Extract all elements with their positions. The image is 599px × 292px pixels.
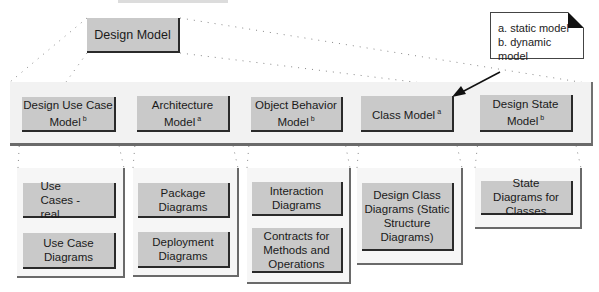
model-superscript: b [540,114,544,121]
model-label: Architecture Model [152,99,213,128]
model-label: Object Behavior Model [255,99,337,128]
model-superscript: a [437,108,441,115]
model-superscript: b [311,115,315,122]
arrowhead-icon [452,86,466,97]
artifact-interaction-diagrams: Interaction Diagrams [252,182,343,216]
artifact-label: Interaction Diagrams [262,184,332,212]
artifact-deployment-diagrams: Deployment Diagrams [138,232,230,268]
artifact-label: State Diagrams for Classes [488,176,564,218]
class-model-box: Class Modela [361,96,454,132]
artifact-label: Package Diagrams [153,186,213,214]
artifact-design-class-diagrams: Design Class Diagrams (Static Structure … [362,183,454,251]
object-behavior-model-box: Object Behavior Modelb [251,97,343,132]
artifact-label: Design Class Diagrams (Static Structure … [364,188,450,244]
artifact-label: Contracts for Methods and Operations [254,229,340,271]
model-superscript: b [83,115,87,122]
design-use-case-model-box: Design Use Case Modelb [22,97,116,132]
artifact-use-case-diagrams: Use Case Diagrams [23,233,116,269]
model-label: Design State Model [493,98,559,127]
design-state-model-box: Design State Modelb [480,95,573,132]
architecture-model-box: Architecture Modela [137,96,230,132]
artifact-label: Use Case Diagrams [39,236,99,264]
artifact-package-diagrams: Package Diagrams [138,183,230,218]
artifact-use-cases-real: Use Cases -real [23,183,116,218]
model-label: Class Model [372,109,435,121]
artifact-contracts: Contracts for Methods and Operations [252,228,343,273]
model-label: Design Use Case Model [23,99,112,128]
artifact-label: Use Cases -real [41,179,97,221]
artifact-label: Deployment Diagrams [148,235,218,263]
artifact-state-diagrams: State Diagrams for Classes [481,181,573,215]
model-superscript: a [197,115,201,122]
